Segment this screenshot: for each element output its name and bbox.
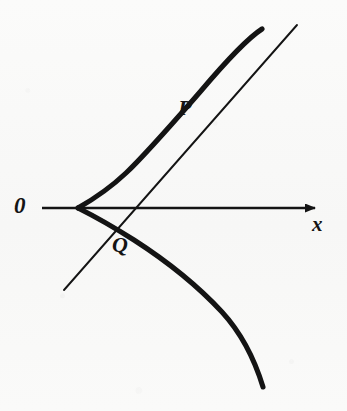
figure-canvas: 0 x P Q xyxy=(0,0,347,411)
cusp-curve-upper-branch xyxy=(78,29,262,208)
point-q-label: Q xyxy=(112,234,128,256)
origin-label: 0 xyxy=(14,194,26,217)
x-axis-label: x xyxy=(312,214,323,235)
diagram-svg xyxy=(0,0,347,411)
cusp-curve-lower-branch xyxy=(78,208,263,387)
tangent-line xyxy=(64,25,297,290)
point-p-label: P xyxy=(178,97,191,119)
